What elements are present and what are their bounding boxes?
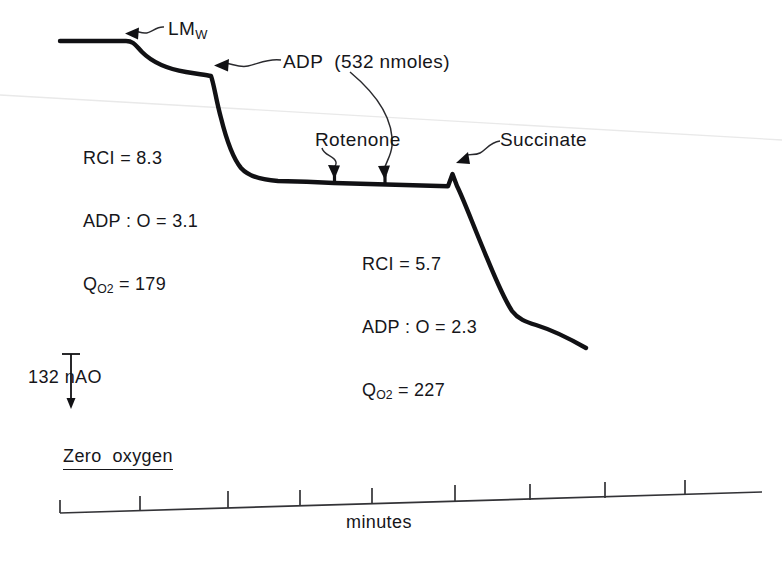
- adp-leader-line: [224, 60, 281, 67]
- stats-block-state3: RCI = 8.3 ADP : O = 3.1 QO2 = 179: [83, 106, 198, 342]
- qo2-value-1: QO2 = 179: [83, 274, 198, 300]
- qo2-prefix-2: Q: [362, 380, 376, 400]
- x-axis-label: minutes: [346, 512, 412, 533]
- qo2-prefix-1: Q: [83, 274, 97, 294]
- adp-o-value-2: ADP : O = 2.3: [362, 317, 477, 338]
- succinate-leader-line: [465, 141, 500, 156]
- adp-label: ADP (532 nmoles): [283, 51, 450, 73]
- qo2-subscript-2: O2: [376, 388, 392, 402]
- rci-value-1: RCI = 8.3: [83, 148, 198, 169]
- scale-bar-label: 132 nAO: [28, 367, 102, 388]
- adp2-leader-line: [350, 72, 392, 170]
- lm-arrowhead-icon: [125, 28, 139, 40]
- adp2-arrowhead-icon: [378, 166, 390, 181]
- succinate-arrowhead-icon: [456, 152, 470, 164]
- scale-bar-arrowhead-bottom-icon: [67, 398, 76, 409]
- qo2-number-2: = 227: [393, 380, 445, 400]
- x-axis-line: [60, 492, 762, 513]
- succinate-label: Succinate: [500, 129, 587, 151]
- oxygen-electrode-figure: LMW ADP (532 nmoles) Rotenone Succinate …: [0, 0, 782, 562]
- zero-oxygen-label: Zero oxygen: [63, 446, 173, 470]
- lm-label-text: LM: [168, 18, 195, 39]
- rotenone-label: Rotenone: [315, 129, 401, 151]
- qo2-subscript-1: O2: [97, 282, 113, 296]
- qo2-number-1: = 179: [114, 274, 166, 294]
- lm-label-subscript: W: [195, 27, 207, 42]
- rotenone-arrowhead-icon: [328, 165, 340, 179]
- adp-o-value-1: ADP : O = 3.1: [83, 211, 198, 232]
- qo2-value-2: QO2 = 227: [362, 380, 477, 406]
- stats-block-succinate: RCI = 5.7 ADP : O = 2.3 QO2 = 227: [362, 212, 477, 448]
- lm-label: LMW: [168, 18, 207, 42]
- rci-value-2: RCI = 5.7: [362, 254, 477, 275]
- adp-arrowhead-icon: [214, 59, 229, 72]
